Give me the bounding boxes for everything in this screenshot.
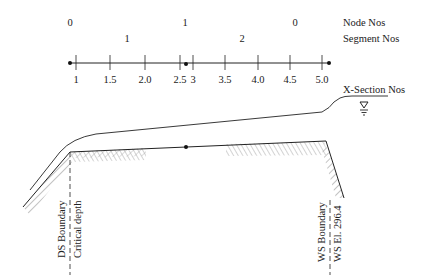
node-marker-0 <box>68 61 72 65</box>
ws-elevation-label: WS El. 296.4 <box>332 205 343 262</box>
xsection-label-6: 4.0 <box>251 74 264 85</box>
ws-boundary-label: WS Boundary <box>316 201 327 262</box>
xsection-label-1: 1.5 <box>103 74 116 85</box>
bed-node-marker <box>184 145 188 149</box>
node-number-2: 0 <box>292 17 297 28</box>
node-number-0: 0 <box>67 17 72 28</box>
node-number-labels: 010 <box>67 17 297 28</box>
xsection-label-2: 2.0 <box>138 74 151 85</box>
segment-number-labels: 12 <box>124 33 244 44</box>
xsection-label-5: 3.5 <box>218 74 231 85</box>
segment-number-1: 2 <box>239 33 244 44</box>
xsection-label-3: 2.5 <box>173 74 186 85</box>
node-marker-end <box>327 61 331 65</box>
node-marker-1 <box>184 62 188 66</box>
water-level-triangle-icon <box>360 102 368 115</box>
ws-slope-bed-hatch <box>322 142 344 198</box>
channel-schematic-diagram: Node Nos Segment Nos X-Section Nos 010 1… <box>0 0 427 280</box>
ds-critical-depth-label: Critical depth <box>72 200 83 258</box>
ws-bed-hatch <box>226 142 327 156</box>
xsection-label-0: 1 <box>73 74 78 85</box>
segment-number-0: 1 <box>124 33 129 44</box>
xsection-label-8: 5.0 <box>315 74 328 85</box>
node-number-1: 1 <box>182 17 187 28</box>
xsection-label-4: 3 <box>190 74 195 85</box>
node-nos-label: Node Nos <box>343 17 385 28</box>
xsection-labels: 11.52.02.533.54.04.55.0 <box>73 74 328 85</box>
xsection-label-7: 4.5 <box>283 74 296 85</box>
segment-nos-label: Segment Nos <box>343 33 399 44</box>
schematic-axis <box>68 61 331 66</box>
xsection-nos-label: X-Section Nos <box>343 84 405 95</box>
ds-boundary-label: DS Boundary <box>56 200 67 258</box>
